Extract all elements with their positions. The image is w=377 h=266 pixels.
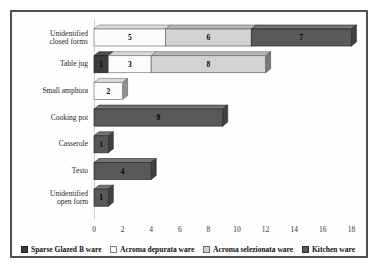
bar-end-cap <box>266 52 271 73</box>
bar-top-face <box>251 25 356 29</box>
legend-label: Kitchen ware <box>312 245 355 254</box>
legend-item: Kitchen ware <box>302 245 355 254</box>
legend-item: Acroma selezionata ware <box>203 245 293 254</box>
x-axis-tick-label: 2 <box>121 225 125 234</box>
bar-top-face <box>94 25 171 29</box>
chart-frame: 56713829141024681012141618 Unidentified … <box>10 10 368 258</box>
bar-end-cap <box>223 105 228 126</box>
bar-top-face <box>108 52 156 56</box>
bar-end-cap <box>123 78 128 99</box>
x-axis-tick-label: 16 <box>319 225 327 234</box>
legend-swatch <box>302 246 309 253</box>
legend-swatch <box>203 246 210 253</box>
category-label: Testo <box>15 167 91 176</box>
category-label: Table jug <box>15 60 91 69</box>
bar-end-cap <box>151 159 156 180</box>
bar-value-label: 1 <box>99 193 103 202</box>
category-label: Small amphora <box>15 87 91 96</box>
legend-swatch <box>21 246 28 253</box>
category-label: Casserole <box>15 140 91 149</box>
category-label: Cooking pot <box>15 113 91 122</box>
legend-swatch <box>110 246 117 253</box>
bar-top-face <box>151 52 270 56</box>
category-label: Unidentified closed forms <box>15 29 91 46</box>
bar-end-cap <box>108 185 113 206</box>
legend-item: Sparse Glazed B ware <box>21 245 101 254</box>
bar-value-label: 1 <box>99 60 103 69</box>
x-axis-tick-label: 8 <box>207 225 211 234</box>
bar-value-label: 4 <box>121 167 125 176</box>
x-axis-tick-label: 0 <box>92 225 96 234</box>
bar-value-label: 6 <box>207 33 211 42</box>
category-axis: Unidentified closed formsTable jugSmall … <box>12 12 91 238</box>
bar-value-label: 9 <box>156 113 160 122</box>
legend-item: Acroma depurata ware <box>110 245 194 254</box>
x-axis-tick-label: 12 <box>262 225 270 234</box>
legend-label: Sparse Glazed B ware <box>31 245 101 254</box>
bar-top-face <box>94 159 156 163</box>
x-axis-tick-label: 18 <box>348 225 356 234</box>
bar-value-label: 8 <box>207 60 211 69</box>
bar-top-face <box>94 78 128 82</box>
legend-label: Acroma depurata ware <box>120 245 194 254</box>
x-axis-tick-label: 4 <box>149 225 153 234</box>
bar-top-face <box>166 25 257 29</box>
bar-value-label: 3 <box>128 60 132 69</box>
category-label: Unidentified open form <box>15 189 91 206</box>
bar-value-label: 7 <box>299 33 303 42</box>
bar-value-label: 5 <box>128 33 132 42</box>
bar-top-face <box>94 105 228 109</box>
bar-end-cap <box>108 132 113 153</box>
x-axis-tick-label: 6 <box>178 225 182 234</box>
bar-value-label: 1 <box>99 140 103 149</box>
scanned-chart-figure: 56713829141024681012141618 Unidentified … <box>0 0 377 266</box>
x-axis-tick-label: 14 <box>290 225 298 234</box>
legend: Sparse Glazed B wareAcroma depurata ware… <box>12 243 366 256</box>
bar-end-cap <box>351 25 356 46</box>
x-axis-tick-label: 10 <box>233 225 241 234</box>
bar-value-label: 2 <box>106 87 110 96</box>
legend-label: Acroma selezionata ware <box>213 245 293 254</box>
